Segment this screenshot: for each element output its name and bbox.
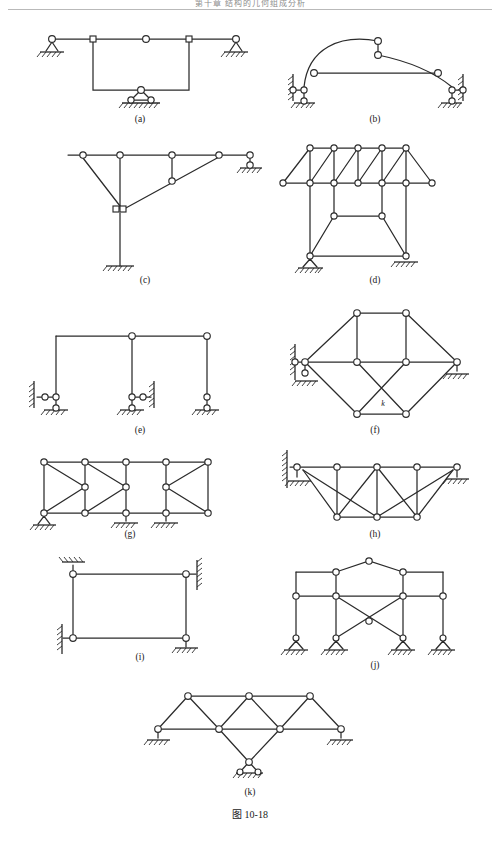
hinge-node	[400, 593, 406, 599]
hinge-node	[307, 180, 313, 186]
panel-c: (c)	[68, 152, 262, 286]
hinge-node	[301, 87, 307, 93]
hinge-node	[307, 145, 313, 151]
hinge-node	[163, 459, 169, 465]
k-label: k	[381, 399, 385, 408]
panel-label-d: (d)	[369, 275, 380, 286]
hinge-node	[247, 152, 253, 158]
hinge-node	[138, 87, 145, 94]
panel-label-k: (k)	[244, 787, 255, 798]
figure-caption: 图 10-18	[232, 809, 268, 820]
hinge-node	[204, 333, 211, 340]
hinge-node	[379, 213, 385, 219]
hinge-node	[454, 464, 460, 470]
hinge-node	[82, 510, 88, 516]
hinge-node	[246, 693, 253, 700]
hinge-node	[290, 87, 296, 93]
panel-h: (h)	[282, 450, 469, 540]
hinge-node	[204, 394, 210, 400]
panel-j-support-1	[281, 641, 308, 655]
panel-i-top-left-support	[59, 557, 85, 571]
hinge-node	[233, 36, 240, 43]
hinge-node	[301, 98, 307, 104]
hinge-node	[216, 152, 222, 158]
panel-label-i: (i)	[136, 652, 145, 663]
hinge-node	[307, 253, 313, 259]
hinge-node	[292, 359, 298, 365]
hinge-node	[163, 484, 169, 490]
hinge-node	[355, 180, 361, 186]
hinge-node	[307, 693, 314, 700]
hinge-node	[333, 635, 339, 641]
hinge-node	[403, 145, 409, 151]
hinge-node	[333, 569, 339, 575]
hinge-node	[204, 405, 210, 411]
hinge-node	[449, 87, 455, 93]
hinge-node	[128, 97, 134, 103]
panel-b: (b)	[288, 38, 466, 125]
hinge-node	[331, 213, 337, 219]
hinge-node	[403, 411, 410, 418]
hinge-node	[129, 394, 135, 400]
hinge-node	[117, 152, 123, 158]
panel-a-bottom-support	[119, 103, 160, 108]
square-hinge-node	[113, 206, 119, 212]
panel-a: (a)	[37, 36, 248, 125]
panel-label-j: (j)	[371, 660, 380, 671]
hinge-node	[331, 145, 337, 151]
panel-a-right-roller-support	[221, 42, 248, 57]
hinge-node	[400, 635, 406, 641]
panel-e: (e)	[29, 333, 219, 436]
panel-f: k (f)	[290, 310, 469, 436]
panel-i-top-right-support	[189, 558, 202, 590]
panel-label-c: (c)	[140, 275, 151, 286]
hinge-node	[41, 510, 47, 516]
panel-g-right-support	[151, 516, 178, 528]
hinge-node	[277, 726, 284, 733]
hinge-node	[354, 411, 361, 418]
hinge-node	[375, 38, 382, 45]
hinge-node	[129, 333, 136, 340]
hinge-node	[414, 464, 420, 470]
panel-k-left-support	[144, 732, 170, 745]
panel-label-f: (f)	[370, 425, 380, 436]
panel-j: (j)	[281, 558, 455, 671]
panel-i-bottom-left-support	[57, 624, 70, 654]
panel-d-right-support	[391, 262, 418, 267]
hinge-node	[403, 180, 409, 186]
hinge-node	[123, 484, 129, 490]
hinge-node	[429, 180, 435, 186]
hinge-node	[311, 70, 318, 77]
panel-d-left-support	[295, 259, 323, 273]
hinge-node	[440, 593, 446, 599]
panel-d: (d)	[280, 145, 435, 286]
panel-j-support-2	[321, 641, 348, 655]
hinge-node	[366, 618, 372, 624]
hinge-node	[403, 253, 409, 259]
panel-j-support-4	[428, 641, 455, 655]
hinge-node	[403, 359, 410, 366]
hinge-node	[216, 726, 223, 733]
panel-g-mid-support	[111, 516, 138, 528]
panel-k: (k)	[144, 693, 353, 798]
hinge-node	[70, 571, 77, 578]
hinge-node	[280, 180, 286, 186]
panel-label-h: (h)	[369, 529, 380, 540]
hinge-node	[237, 769, 243, 775]
hinge-node	[454, 359, 461, 366]
panel-g-left-support	[30, 516, 56, 530]
hinge-node	[333, 593, 339, 599]
hinge-node	[41, 459, 47, 465]
hinge-node	[143, 36, 150, 43]
panel-k-right-support	[327, 732, 353, 745]
hinge-node	[403, 310, 410, 317]
hinge-node	[123, 510, 129, 516]
figure-10-18-canvas: (a)	[0, 0, 500, 854]
hinge-node	[435, 70, 442, 77]
panel-i-bottom-right-support	[172, 641, 198, 653]
hinge-node	[148, 97, 154, 103]
panel-i: (i)	[57, 557, 202, 663]
hinge-node	[294, 464, 300, 470]
panel-label-e: (e)	[135, 425, 146, 436]
hinge-node	[334, 514, 340, 520]
